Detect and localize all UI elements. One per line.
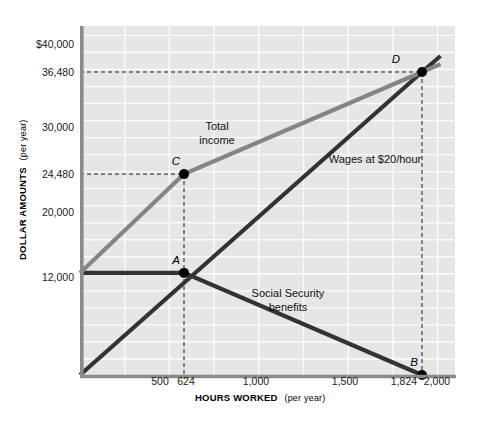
y-tick-label-30000: 30,000	[42, 121, 74, 133]
point-label-c: C	[172, 155, 181, 167]
x-tick-label-1500: 1,500	[332, 375, 358, 387]
x-axis-title-sub: (per year)	[284, 393, 325, 403]
y-tick-label-20000: 20,000	[42, 206, 74, 218]
y-tick-label-36480: 36,480	[42, 66, 74, 78]
x-tick-label-624: 624	[177, 375, 195, 387]
y-axis-title-sub: (per year)	[18, 119, 28, 160]
y-tick-label-24480: 24,480	[42, 168, 74, 180]
y-axis-title: DOLLAR AMOUNTS (per year)	[17, 119, 28, 260]
label-wages: Wages at $20/hour	[329, 153, 422, 165]
point-label-d: D	[392, 53, 400, 65]
x-tick-label-500: 500	[151, 375, 169, 387]
label-total-income-line1: Total	[205, 120, 228, 132]
marker-point-a	[179, 268, 189, 278]
marker-point-c	[179, 169, 189, 179]
label-social-security-line1: Social Security	[252, 287, 325, 299]
income-benefits-line-chart: A B C D Total income Wages at $20/hour S…	[0, 0, 483, 422]
marker-point-d	[417, 67, 427, 77]
x-tick-label-1000: 1,000	[243, 375, 269, 387]
x-axis-title: HOURS WORKED (per year)	[195, 392, 325, 403]
x-tick-label-1824: 1,824	[391, 375, 417, 387]
chart-figure: A B C D Total income Wages at $20/hour S…	[0, 0, 483, 422]
x-tick-label-2000: 2,000	[424, 375, 450, 387]
y-axis-title-main: DOLLAR AMOUNTS	[17, 167, 28, 260]
label-total-income-line2: income	[199, 134, 234, 146]
point-label-b: B	[410, 356, 418, 368]
y-tick-label-40000: $40,000	[36, 38, 74, 50]
label-social-security-line2: benefits	[269, 301, 308, 313]
x-axis-title-main: HOURS WORKED	[195, 392, 278, 403]
y-tick-label-12000: 12,000	[42, 271, 74, 283]
point-label-a: A	[171, 254, 180, 266]
